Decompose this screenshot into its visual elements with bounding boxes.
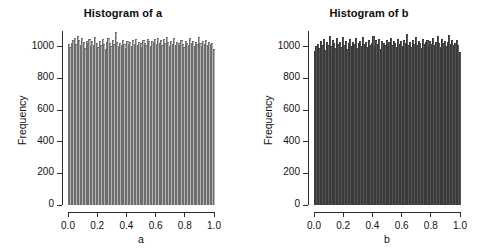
panel-a-bars: [68, 31, 214, 205]
panel-b-x-axis-label: b: [314, 233, 460, 245]
y-tick-mark: [303, 141, 308, 142]
y-tick-label: 200: [246, 166, 300, 177]
y-tick-mark: [57, 141, 62, 142]
panel-b-y-axis-label: Frequency: [262, 95, 274, 145]
y-tick-mark: [57, 110, 62, 111]
y-tick-label: 1000: [0, 40, 54, 51]
panel-b-x-axis-line: [314, 212, 460, 213]
y-tick-label: 0: [0, 198, 54, 209]
panel-b-y-axis-line: [308, 31, 309, 205]
histogram-panel-b: Histogram of b 02004006008001000 Frequen…: [246, 0, 492, 250]
panel-a-y-axis-line: [62, 31, 63, 205]
x-tick-mark: [372, 212, 373, 217]
x-tick-mark: [155, 212, 156, 217]
x-tick-label: 1.0: [194, 220, 234, 231]
histogram-figure: Histogram of a 02004006008001000 Frequen…: [0, 0, 492, 250]
x-tick-mark: [343, 212, 344, 217]
panel-b-plot-area: [314, 31, 460, 205]
y-tick-label: 800: [246, 71, 300, 82]
histogram-bar: [459, 52, 461, 205]
x-tick-mark: [214, 212, 215, 217]
y-tick-mark: [57, 46, 62, 47]
histogram-panel-a: Histogram of a 02004006008001000 Frequen…: [0, 0, 246, 250]
x-tick-mark: [184, 212, 185, 217]
y-tick-mark: [303, 46, 308, 47]
x-tick-mark: [460, 212, 461, 217]
x-tick-mark: [126, 212, 127, 217]
panel-a-y-axis-label: Frequency: [16, 95, 28, 145]
panel-a-x-axis-label: a: [68, 233, 214, 245]
x-tick-mark: [314, 212, 315, 217]
y-tick-mark: [303, 110, 308, 111]
x-tick-label: 1.0: [440, 220, 480, 231]
x-tick-mark: [97, 212, 98, 217]
y-tick-label: 0: [246, 198, 300, 209]
y-tick-label: 200: [0, 166, 54, 177]
panel-b-title: Histogram of b: [246, 7, 492, 19]
panel-a-x-axis-line: [68, 212, 214, 213]
x-tick-mark: [401, 212, 402, 217]
panel-a-plot-area: [68, 31, 214, 205]
y-tick-mark: [57, 205, 62, 206]
y-tick-mark: [303, 78, 308, 79]
panel-a-title: Histogram of a: [0, 7, 246, 19]
y-tick-label: 800: [0, 71, 54, 82]
y-tick-mark: [303, 173, 308, 174]
histogram-bar: [213, 49, 215, 205]
x-tick-mark: [430, 212, 431, 217]
y-tick-label: 1000: [246, 40, 300, 51]
x-tick-mark: [68, 212, 69, 217]
y-tick-mark: [57, 78, 62, 79]
y-tick-mark: [303, 205, 308, 206]
panel-b-bars: [314, 31, 460, 205]
y-tick-mark: [57, 173, 62, 174]
